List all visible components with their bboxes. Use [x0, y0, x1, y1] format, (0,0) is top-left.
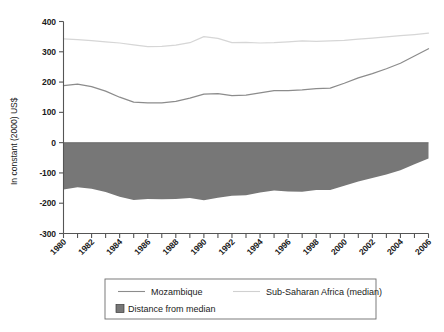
y-tick-label: -300 [39, 229, 56, 239]
y-tick-label: -100 [39, 168, 56, 178]
y-axis-title: In constant (2000) US$ [9, 97, 19, 185]
legend-label-distance: Distance from median [128, 304, 216, 314]
economic-line-chart: In constant (2000) US$ 4003002001000-100… [0, 0, 444, 332]
y-tick-label: 400 [42, 17, 56, 27]
chart-legend: Mozambique Sub-Saharan Africa (median) D… [105, 279, 382, 319]
y-tick-label: 200 [42, 77, 56, 87]
legend-label-mozambique: Mozambique [151, 287, 203, 297]
legend-swatch-distance [116, 305, 124, 313]
y-tick-label: 300 [42, 47, 56, 57]
legend-label-ssa-median: Sub-Saharan Africa (median) [266, 287, 382, 297]
y-tick-label: 100 [42, 107, 56, 117]
y-tick-label: -200 [39, 198, 56, 208]
y-tick-label: 0 [51, 138, 56, 148]
chart-figure: In constant (2000) US$ 4003002001000-100… [0, 0, 444, 332]
